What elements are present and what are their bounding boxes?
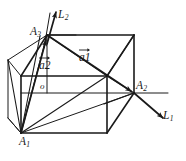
axis-label-l2: L2	[58, 9, 69, 22]
origin-label: o	[40, 82, 45, 91]
vector-label-a2: a2	[39, 56, 51, 72]
vector-label-a1: a1	[79, 48, 91, 64]
cube-front-face	[21, 76, 134, 133]
vector-a1-overbar-arrow	[79, 47, 90, 52]
geometry-figure: A3 A1 A2 L2 L1 o a1 a2	[0, 0, 186, 161]
edge-bottom-right-diagonal	[107, 93, 134, 133]
diagonal-a1-to-top-left-aux	[21, 36, 40, 133]
face-diagonals	[8, 35, 134, 133]
axis-l1-shaft	[134, 93, 163, 118]
axis-label-l1: L1	[163, 110, 174, 123]
vertex-label-a1: A1	[19, 136, 30, 149]
vector-a2-overbar-arrow	[39, 55, 50, 60]
line-a2-to-front-top-right	[107, 76, 134, 93]
vertex-label-a2: A2	[136, 80, 147, 93]
axis-l1	[134, 93, 163, 118]
diagonal-front-top-right-to-back-top-right	[107, 35, 134, 76]
vertex-label-a3: A3	[30, 26, 41, 39]
diagonal-a1-to-back-left-top	[8, 60, 21, 133]
